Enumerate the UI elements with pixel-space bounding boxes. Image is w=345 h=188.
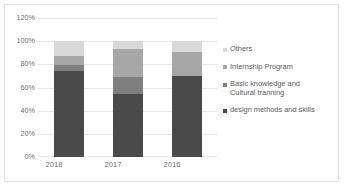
plot-area bbox=[38, 18, 217, 157]
y-tick-120: 120% bbox=[17, 14, 35, 22]
bar-2018[interactable] bbox=[54, 41, 84, 157]
segment-2017-design-methods[interactable] bbox=[113, 94, 143, 157]
segment-2018-design-methods[interactable] bbox=[54, 71, 84, 157]
y-axis: 120% 100% 80% 60% 40% 20% 0% bbox=[5, 18, 35, 157]
legend-swatch-icon-internship-program bbox=[223, 65, 227, 69]
legend-label-internship-program: Internship Program bbox=[230, 63, 293, 72]
legend-swatch-icon-design-methods bbox=[223, 109, 227, 113]
chart-frame: 120% 100% 80% 60% 40% 20% 0% bbox=[4, 4, 339, 182]
x-tick-2017: 2017 bbox=[90, 160, 136, 169]
segment-2018-others[interactable] bbox=[54, 41, 84, 56]
y-tick-100: 100% bbox=[17, 37, 35, 45]
legend-item-others[interactable]: Others bbox=[223, 45, 343, 54]
chart-legend: Others Internship Program Basic knowledg… bbox=[223, 45, 343, 124]
x-tick-2016: 2016 bbox=[149, 160, 195, 169]
segment-2016-design-methods[interactable] bbox=[172, 76, 202, 157]
legend-item-design-methods[interactable]: design methods and skills bbox=[223, 106, 343, 115]
legend-item-basic-knowledge[interactable]: Basic knowledge andCultural tranning bbox=[223, 80, 343, 97]
legend-label-design-methods: design methods and skills bbox=[230, 106, 315, 115]
legend-swatch-icon-others bbox=[223, 48, 227, 52]
legend-swatch-icon-basic-knowledge bbox=[223, 83, 227, 87]
y-tick-20: 20% bbox=[21, 130, 35, 138]
legend-label-basic-knowledge-line2: Cultural tranning bbox=[230, 88, 284, 97]
y-tick-40: 40% bbox=[21, 107, 35, 115]
segment-2018-internship-program[interactable] bbox=[54, 56, 84, 65]
gridline-120 bbox=[38, 18, 217, 19]
y-tick-60: 60% bbox=[21, 84, 35, 92]
legend-item-internship-program[interactable]: Internship Program bbox=[223, 63, 343, 72]
bar-2017[interactable] bbox=[113, 41, 143, 157]
segment-2017-others[interactable] bbox=[113, 41, 143, 49]
segment-2016-internship-program[interactable] bbox=[172, 52, 202, 76]
bar-2016[interactable] bbox=[172, 41, 202, 157]
legend-label-basic-knowledge: Basic knowledge andCultural tranning bbox=[230, 80, 300, 97]
legend-label-others: Others bbox=[230, 45, 252, 54]
y-tick-80: 80% bbox=[21, 60, 35, 68]
segment-2017-basic-knowledge[interactable] bbox=[113, 77, 143, 94]
x-tick-2018: 2018 bbox=[31, 160, 77, 169]
segment-2016-others[interactable] bbox=[172, 41, 202, 51]
segment-2017-internship-program[interactable] bbox=[113, 49, 143, 77]
